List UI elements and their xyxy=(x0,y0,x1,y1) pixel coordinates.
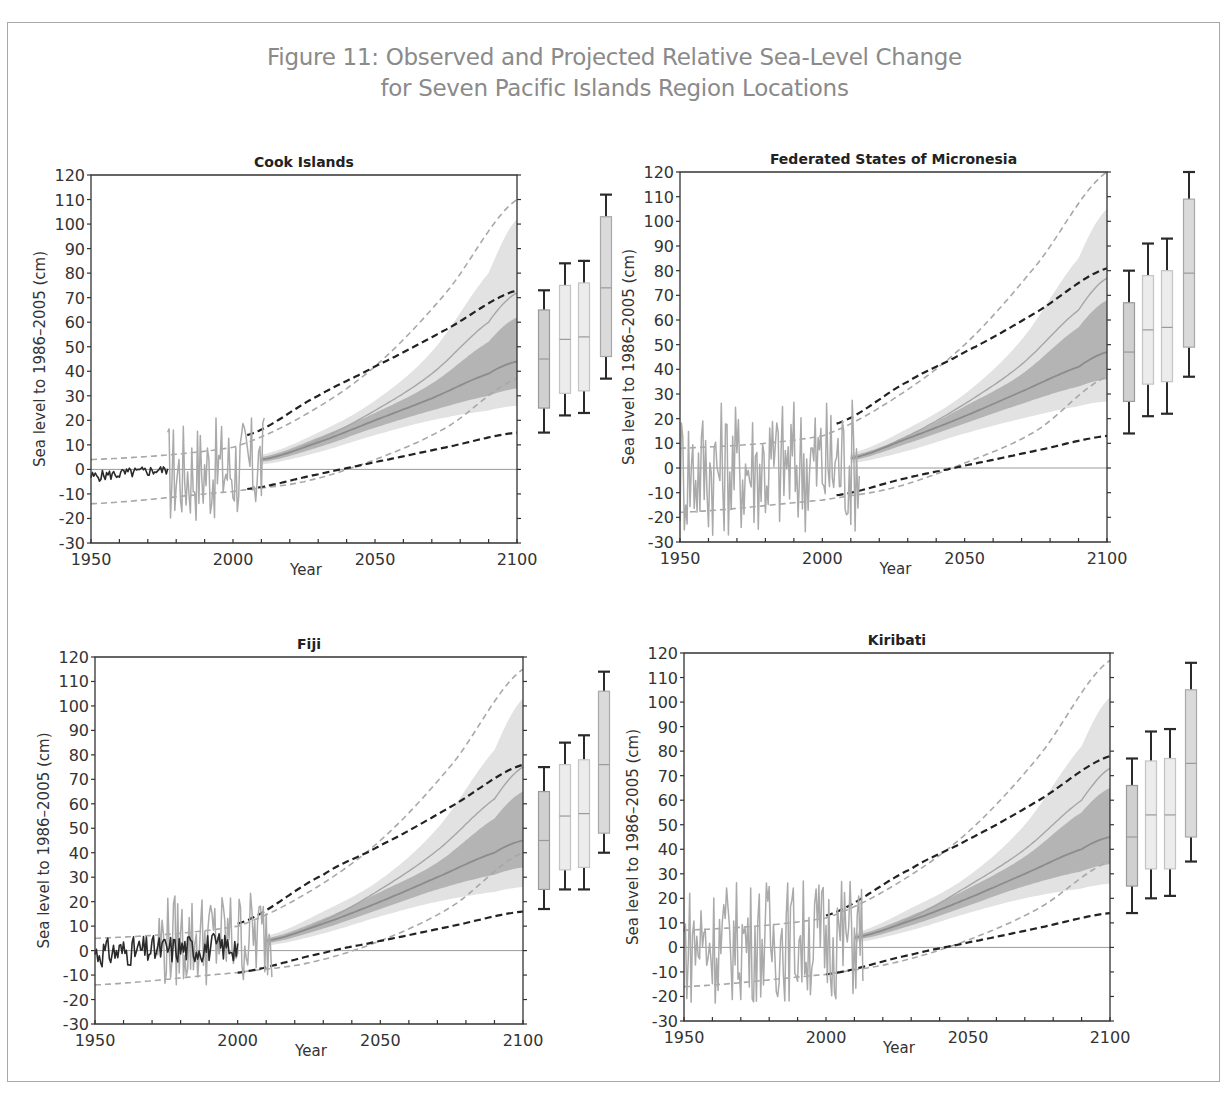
x-tick-label: 2000 xyxy=(806,1028,847,1047)
y-tick-label: 40 xyxy=(658,840,678,859)
y-tick-label: 30 xyxy=(658,865,678,884)
y-tick-label: 60 xyxy=(658,791,678,810)
box-plot-rcp45 xyxy=(1145,732,1157,899)
x-tick-label: 1950 xyxy=(664,1028,705,1047)
plot-area xyxy=(684,660,1110,1003)
observed-altimetry-trace xyxy=(684,881,863,1003)
y-tick-label: 110 xyxy=(647,669,678,688)
box-plot-rcp26 xyxy=(1126,758,1138,913)
y-axis-label: Sea level to 1986–2005 (cm) xyxy=(624,729,642,945)
x-tick-label: 2100 xyxy=(1090,1028,1131,1047)
box-plot-rcp85 xyxy=(1185,663,1197,862)
panel-title: Kiribati xyxy=(868,632,926,648)
x-tick-label: 2050 xyxy=(948,1028,989,1047)
dashed-black-lower-envelope xyxy=(826,913,1110,974)
y-tick-label: 0 xyxy=(668,938,678,957)
y-tick-label: 70 xyxy=(658,767,678,786)
chart-panel-kiribati: -30-20-100102030405060708090100110120195… xyxy=(0,0,1229,1113)
y-tick-label: 10 xyxy=(658,914,678,933)
y-tick-label: 80 xyxy=(658,742,678,761)
y-tick-label: 90 xyxy=(658,718,678,737)
box-plot-rcp60 xyxy=(1164,729,1176,896)
y-tick-label: -20 xyxy=(652,987,678,1006)
x-axis-label: Year xyxy=(882,1039,916,1057)
y-tick-label: 20 xyxy=(658,889,678,908)
y-tick-label: 100 xyxy=(647,693,678,712)
y-tick-label: -10 xyxy=(652,963,678,982)
y-tick-label: 120 xyxy=(647,644,678,663)
y-tick-label: 50 xyxy=(658,816,678,835)
